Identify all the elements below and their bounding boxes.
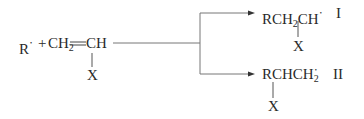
- product-i-label: I: [336, 6, 341, 21]
- product-i-formula: RCH2CH•: [262, 6, 322, 31]
- reactant-substituent-x: X: [87, 68, 98, 83]
- product-ii-formula: RCHCH•2: [262, 67, 321, 83]
- product-i-ch: CH: [298, 11, 319, 27]
- ch2-text: CH: [48, 35, 69, 51]
- product-i-rch: RCH: [262, 11, 293, 27]
- product-ii-sub-and-dot: •2: [314, 68, 321, 83]
- reactant-ch: CH: [86, 36, 107, 51]
- product-ii-substituent-x: X: [268, 99, 279, 114]
- radical-dot: •: [30, 40, 32, 46]
- arrowhead-icon: [248, 72, 255, 77]
- product-ii-rchch: RCHCH: [262, 66, 314, 82]
- ch2-subscript: 2: [69, 42, 74, 53]
- product-ii-label: II: [333, 67, 343, 82]
- plus-sign: +: [38, 36, 46, 51]
- arrowhead-icon: [248, 11, 255, 16]
- product-i-substituent-x: X: [293, 39, 304, 54]
- radical-r: R: [19, 41, 29, 57]
- reactant-ch2: CH2: [48, 36, 74, 55]
- radical-dot: •: [320, 10, 322, 16]
- reactant-radical: R•: [19, 36, 32, 57]
- product-ii-subscript: 2: [314, 73, 319, 84]
